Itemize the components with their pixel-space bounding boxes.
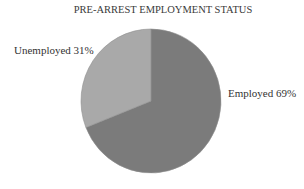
unemployed-label: Unemployed 31%	[14, 44, 94, 56]
employed-label: Employed 69%	[228, 87, 296, 99]
pie-slices	[81, 29, 221, 173]
